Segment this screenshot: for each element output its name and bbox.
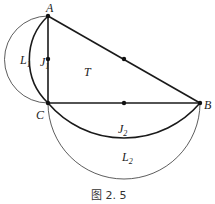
label-L2: L2 bbox=[121, 150, 133, 166]
midpoint-AB bbox=[122, 57, 126, 61]
label-T: T bbox=[84, 65, 92, 79]
point-B bbox=[198, 101, 202, 105]
midpoint-CB bbox=[122, 101, 126, 105]
label-A: A bbox=[45, 1, 54, 15]
label-C: C bbox=[36, 108, 45, 122]
figure-caption: 图 2. 5 bbox=[91, 189, 127, 202]
semicircle-L2-arc bbox=[48, 103, 200, 179]
geometry-figure: A C B L1 J1 T J2 L2 图 2. 5 bbox=[0, 0, 215, 204]
label-B: B bbox=[204, 98, 212, 112]
midpoint-AC bbox=[46, 57, 50, 61]
point-C bbox=[46, 101, 50, 105]
label-J2: J2 bbox=[118, 122, 127, 138]
